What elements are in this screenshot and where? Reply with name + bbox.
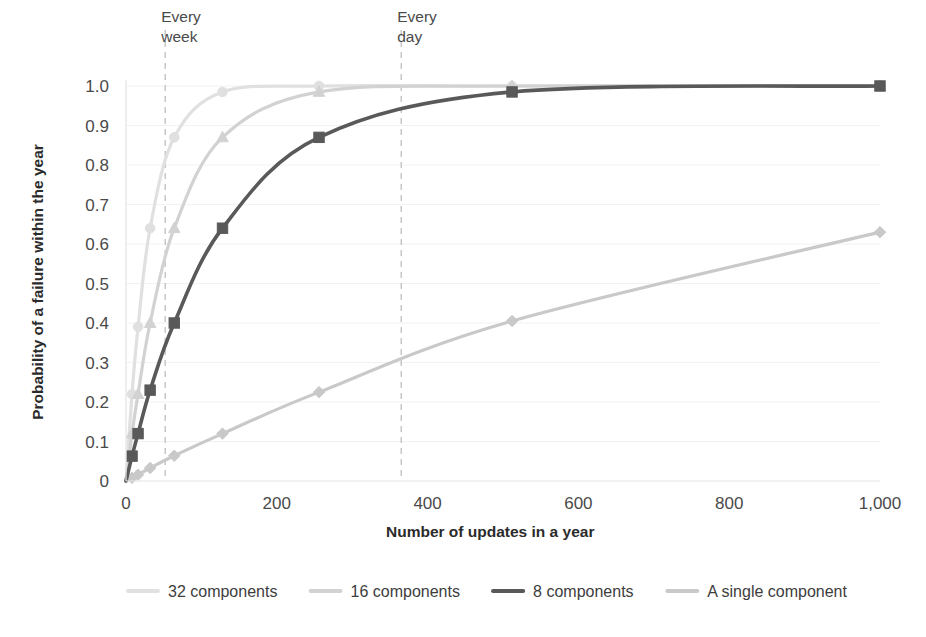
data-point-diamond: [506, 315, 517, 326]
data-point-square: [507, 87, 517, 97]
data-point-diamond: [169, 450, 180, 461]
y-tick-label: 0.8: [85, 156, 109, 175]
gridlines-group: [126, 86, 880, 442]
x-tick-label: 600: [564, 494, 592, 513]
data-point-square: [145, 385, 155, 395]
x-tick-label: 0: [121, 494, 130, 513]
data-point-square: [169, 318, 179, 328]
legend-item[interactable]: 32 components: [128, 583, 277, 600]
data-point-circle: [169, 133, 179, 143]
y-tick-label: 0: [100, 472, 109, 491]
y-tick-label: 0.2: [85, 393, 109, 412]
legend-item[interactable]: A single component: [667, 583, 847, 600]
x-tick-labels: 02004006008001,000: [121, 494, 901, 513]
data-point-diamond: [313, 386, 324, 397]
line-chart: 00.10.20.30.40.50.60.70.80.91.0 02004006…: [0, 0, 926, 637]
chart-container: 00.10.20.30.40.50.60.70.80.91.0 02004006…: [0, 0, 926, 637]
legend: 32 components16 components8 componentsA …: [128, 583, 848, 600]
series-line: [126, 232, 880, 481]
y-axis-title: Probability of a failure within the year: [29, 144, 46, 420]
data-point-square: [875, 81, 885, 91]
data-point-square: [314, 132, 324, 142]
data-point-triangle: [144, 317, 155, 327]
series-8-components: [126, 81, 885, 481]
x-tick-label: 400: [413, 494, 441, 513]
y-tick-label: 0.1: [85, 433, 109, 452]
x-tick-label: 800: [715, 494, 743, 513]
data-point-circle: [218, 87, 228, 97]
legend-label: A single component: [707, 583, 847, 600]
series-32-components: [126, 81, 885, 481]
y-tick-label: 0.3: [85, 354, 109, 373]
annotation-label-line2: day: [397, 28, 422, 45]
series-16-components: [126, 80, 886, 481]
y-tick-label: 0.7: [85, 196, 109, 215]
annotation-label-line1: Every: [161, 8, 201, 25]
y-tick-label: 0.6: [85, 235, 109, 254]
x-tick-label: 200: [263, 494, 291, 513]
legend-item[interactable]: 16 components: [311, 583, 460, 600]
annotation-lines-group: [165, 30, 401, 481]
axes-group: [126, 80, 880, 481]
annotation-labels: EveryweekEveryday: [160, 8, 437, 45]
data-point-diamond: [144, 462, 155, 473]
data-point-diamond: [217, 428, 228, 439]
data-point-circle: [133, 322, 143, 332]
data-point-square: [127, 451, 137, 461]
data-point-triangle: [169, 222, 180, 232]
data-point-diamond: [874, 226, 885, 237]
y-tick-label: 0.9: [85, 117, 109, 136]
y-tick-label: 0.4: [85, 314, 109, 333]
y-tick-labels: 00.10.20.30.40.50.60.70.80.91.0: [85, 77, 109, 491]
series-group: [126, 80, 886, 484]
y-tick-label: 0.5: [85, 275, 109, 294]
legend-label: 32 components: [168, 583, 277, 600]
annotation-label-line2: week: [160, 28, 197, 45]
legend-label: 8 components: [533, 583, 634, 600]
x-axis-title: Number of updates in a year: [386, 523, 594, 540]
data-point-square: [217, 223, 227, 233]
y-tick-label: 1.0: [85, 77, 109, 96]
legend-label: 16 components: [351, 583, 460, 600]
x-tick-label: 1,000: [859, 494, 902, 513]
data-point-circle: [145, 223, 155, 233]
legend-item[interactable]: 8 components: [493, 583, 634, 600]
annotation-label-line1: Every: [397, 8, 437, 25]
data-point-square: [133, 428, 143, 438]
series-a-single-component: [126, 226, 886, 483]
